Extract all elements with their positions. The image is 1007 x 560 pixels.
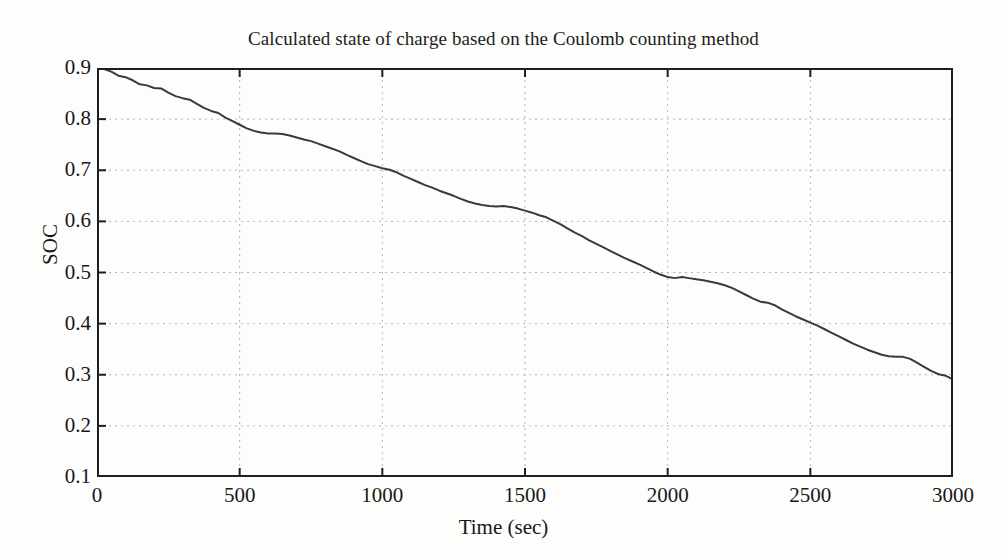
x-tick-label: 0 xyxy=(92,485,103,506)
x-tick-label: 2500 xyxy=(789,485,831,506)
x-axis-tick-labels: 050010001500200025003000 xyxy=(0,0,1007,560)
x-axis-label: Time (sec) xyxy=(0,515,1007,540)
x-tick-label: 2000 xyxy=(647,485,689,506)
x-tick-label: 3000 xyxy=(932,485,974,506)
x-tick-label: 500 xyxy=(224,485,256,506)
x-tick-label: 1000 xyxy=(361,485,403,506)
x-tick-label: 1500 xyxy=(504,485,546,506)
y-axis-label: SOC xyxy=(38,185,63,305)
chart-figure: Calculated state of charge based on the … xyxy=(0,0,1007,560)
